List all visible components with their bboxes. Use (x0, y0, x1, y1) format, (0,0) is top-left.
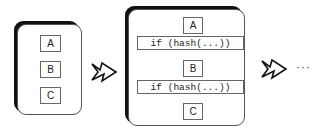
block-a: A (40, 35, 61, 52)
block-c: C (40, 87, 61, 104)
block-a: A (183, 17, 203, 34)
transform-arrow-icon (90, 60, 118, 84)
instrumented-code-panel: A if (hash(...)) B if (hash(...)) C (128, 9, 245, 126)
block-b: B (40, 61, 61, 78)
transform-arrow-icon (260, 57, 288, 81)
block-b: B (183, 60, 203, 77)
hash-check-1: if (hash(...)) (137, 36, 244, 50)
original-code-panel: A B C (17, 24, 82, 115)
block-c: C (183, 103, 203, 120)
hash-check-2: if (hash(...)) (137, 80, 244, 94)
continuation-ellipsis: ··· (296, 60, 311, 74)
